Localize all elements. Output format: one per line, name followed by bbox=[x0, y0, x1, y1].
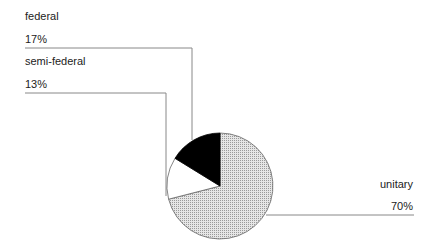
label-unitary-pct: 70% bbox=[391, 200, 413, 212]
label-semi-federal-pct: 13% bbox=[25, 78, 47, 90]
leader-line-semi-federal bbox=[25, 93, 166, 196]
label-semi-federal-name: semi-federal bbox=[25, 55, 86, 67]
label-federal-pct: 17% bbox=[25, 33, 47, 45]
label-unitary-name: unitary bbox=[380, 178, 413, 190]
pie-chart bbox=[0, 0, 435, 247]
label-federal-name: federal bbox=[25, 10, 59, 22]
